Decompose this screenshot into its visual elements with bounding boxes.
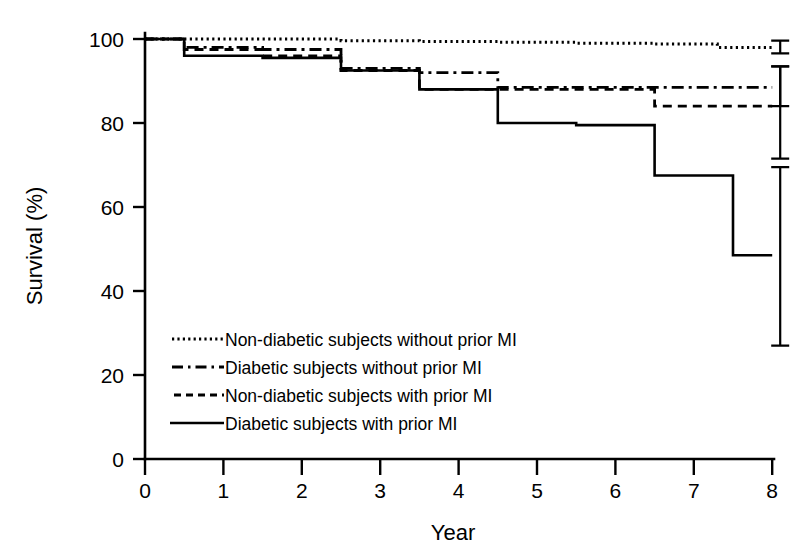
chart-legend: Non-diabetic subjects without prior MI D… bbox=[170, 330, 517, 434]
curve-diabetic-with-prior-mi bbox=[145, 39, 772, 255]
legend-label-0: Non-diabetic subjects without prior MI bbox=[225, 330, 517, 350]
x-tick-label-8: 8 bbox=[766, 479, 778, 502]
x-axis-title: Year bbox=[431, 520, 475, 545]
curve-non-diabetic-with-prior-mi bbox=[145, 39, 772, 106]
y-tick-marks bbox=[133, 39, 145, 459]
y-tick-label-40: 40 bbox=[101, 280, 124, 303]
x-tick-label-1: 1 bbox=[218, 479, 230, 502]
x-tick-label-3: 3 bbox=[374, 479, 386, 502]
legend-label-3: Diabetic subjects with prior MI bbox=[225, 414, 457, 434]
y-axis-title: Survival (%) bbox=[22, 187, 47, 306]
x-tick-label-6: 6 bbox=[610, 479, 622, 502]
legend-item-non-diabetic-without-prior-mi: Non-diabetic subjects without prior MI bbox=[172, 330, 517, 350]
x-tick-label-5: 5 bbox=[531, 479, 543, 502]
x-tick-label-4: 4 bbox=[453, 479, 465, 502]
legend-item-non-diabetic-with-prior-mi: Non-diabetic subjects with prior MI bbox=[174, 386, 492, 406]
x-tick-label-2: 2 bbox=[296, 479, 308, 502]
legend-item-diabetic-with-prior-mi: Diabetic subjects with prior MI bbox=[170, 414, 457, 434]
y-tick-label-60: 60 bbox=[101, 196, 124, 219]
y-tick-label-80: 80 bbox=[101, 112, 124, 135]
x-tick-marks bbox=[145, 459, 772, 475]
chart-canvas: 100 80 60 40 20 0 0 1 2 3 4 5 6 7 8 Year… bbox=[0, 0, 808, 551]
error-bar-diabetic-with-prior-mi bbox=[771, 167, 789, 346]
error-bar-non-diabetic-without-prior-mi bbox=[771, 41, 789, 54]
legend-item-diabetic-without-prior-mi: Diabetic subjects without prior MI bbox=[172, 358, 482, 378]
legend-label-1: Diabetic subjects without prior MI bbox=[225, 358, 482, 378]
y-tick-label-100: 100 bbox=[89, 28, 124, 51]
x-tick-label-0: 0 bbox=[139, 479, 151, 502]
x-tick-label-7: 7 bbox=[688, 479, 700, 502]
curve-diabetic-without-prior-mi bbox=[145, 39, 772, 87]
survival-chart-figure: 100 80 60 40 20 0 0 1 2 3 4 5 6 7 8 Year… bbox=[0, 0, 808, 551]
y-tick-label-0: 0 bbox=[112, 448, 124, 471]
legend-label-2: Non-diabetic subjects with prior MI bbox=[225, 386, 492, 406]
data-curves bbox=[145, 39, 772, 255]
y-tick-label-20: 20 bbox=[101, 364, 124, 387]
error-bar-non-diabetic-with-prior-mi bbox=[771, 66, 789, 158]
error-bars bbox=[771, 41, 789, 346]
